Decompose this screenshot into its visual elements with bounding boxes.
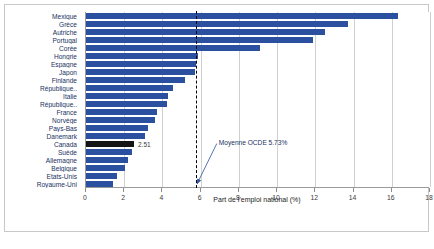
category-label: Grèce	[0, 20, 81, 28]
category-label: Royaume-Uni	[0, 180, 81, 188]
category-label: Japon	[0, 68, 81, 76]
oecd-average-line	[196, 11, 197, 188]
category-label: Corée	[0, 44, 81, 52]
bar-rows: 2.51	[86, 12, 429, 187]
bar-su-de	[86, 149, 132, 155]
bar-row	[86, 100, 429, 108]
x-tick-6	[200, 188, 201, 192]
bar-row	[86, 36, 429, 44]
category-label: Autriche	[0, 28, 81, 36]
figure: MexiqueGrèceAutrichePortugalCoréeHongrie…	[0, 0, 434, 249]
x-tick-10	[276, 188, 277, 192]
category-label: Portugal	[0, 36, 81, 44]
x-tick-16	[391, 188, 392, 192]
bar-etats-unis	[86, 173, 117, 179]
bar-value-label: 2.51	[138, 141, 151, 148]
category-label: Danemark	[0, 132, 81, 140]
bar-row	[86, 76, 429, 84]
category-label: Espagne	[0, 60, 81, 68]
bar-row	[86, 172, 429, 180]
x-tick-0	[85, 188, 86, 192]
x-tick-12	[314, 188, 315, 192]
x-tick-4	[161, 188, 162, 192]
bar-row	[86, 84, 429, 92]
category-label: Hongrie	[0, 52, 81, 60]
bar-row	[86, 180, 429, 188]
category-label: France	[0, 108, 81, 116]
figure-caption	[4, 236, 429, 247]
bar-row	[86, 52, 429, 60]
bar-row	[86, 68, 429, 76]
category-label: Italie	[0, 92, 81, 100]
oecd-average-annotation: Moyenne OCDE 5.73%	[219, 139, 288, 146]
bar-portugal	[86, 37, 313, 43]
bar-royaume-uni	[86, 181, 113, 187]
category-label: République..	[0, 84, 81, 92]
bar-row	[86, 164, 429, 172]
bar-france	[86, 109, 157, 115]
bar-gr-ce	[86, 21, 348, 27]
bar-row	[86, 124, 429, 132]
bar-danemark	[86, 133, 145, 139]
bar-cor-e	[86, 45, 260, 51]
category-label: Belgique	[0, 164, 81, 172]
bar-hongrie	[86, 53, 198, 59]
bar-autriche	[86, 29, 325, 35]
gridline-18	[430, 12, 431, 187]
bar-row	[86, 156, 429, 164]
bar-finlande	[86, 77, 185, 83]
bar-row	[86, 44, 429, 52]
bar-pays-bas	[86, 125, 148, 131]
bar-espagne	[86, 61, 196, 67]
category-label: Finlande	[0, 76, 81, 84]
category-label: Suède	[0, 148, 81, 156]
category-label: Pays-Bas	[0, 124, 81, 132]
bar-allemagne	[86, 157, 128, 163]
category-label: Canada	[0, 140, 81, 148]
plot-area: 2.51	[85, 12, 429, 188]
bar-row	[86, 92, 429, 100]
bar-norv-ge	[86, 117, 155, 123]
bar-row	[86, 108, 429, 116]
category-label: République..	[0, 100, 81, 108]
bar-row	[86, 60, 429, 68]
bar-row	[86, 116, 429, 124]
bar-canada	[86, 141, 134, 147]
category-label: Norvège	[0, 116, 81, 124]
bar-r-publique	[86, 85, 173, 91]
x-tick-8	[238, 188, 239, 192]
bar-row	[86, 148, 429, 156]
bar-japon	[86, 69, 195, 75]
x-tick-18	[429, 188, 430, 192]
bar-row	[86, 12, 429, 20]
category-label: Allemagne	[0, 156, 81, 164]
category-label: Etats-Unis	[0, 172, 81, 180]
bar-row	[86, 20, 429, 28]
bar-r-publique	[86, 101, 167, 107]
x-tick-14	[353, 188, 354, 192]
bar-mexique	[86, 13, 398, 19]
bar-row	[86, 28, 429, 36]
x-axis-title: Part de l'emploi national (%)	[85, 196, 429, 203]
x-tick-2	[123, 188, 124, 192]
bar-italie	[86, 93, 168, 99]
category-axis-labels: MexiqueGrèceAutrichePortugalCoréeHongrie…	[0, 12, 81, 188]
category-label: Mexique	[0, 12, 81, 20]
bar-belgique	[86, 165, 125, 171]
